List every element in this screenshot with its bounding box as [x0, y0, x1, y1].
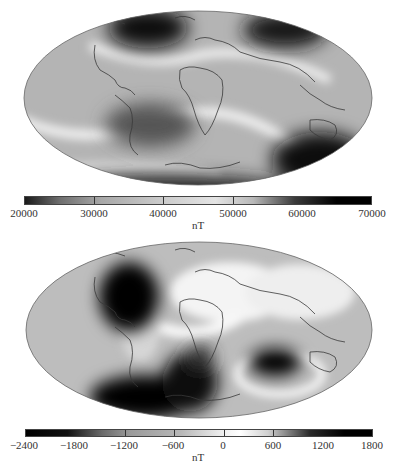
tick-label: 70000	[358, 207, 386, 219]
tick-label: −600	[162, 439, 185, 451]
tick-label: −1200	[110, 439, 138, 451]
colorbar-tick	[94, 197, 95, 204]
colorbar-total-intensity	[24, 196, 372, 205]
tick-label: −1800	[60, 439, 88, 451]
colorbar-tick	[224, 430, 225, 436]
colorbar-tick	[174, 430, 175, 436]
tick-label: 40000	[149, 207, 177, 219]
map-panel-non-dipole-field: −2400 −1800 −1200 −600 0 600 1200 1800 n…	[0, 232, 400, 474]
tick-label: −2400	[10, 439, 38, 451]
colorbar-tick	[273, 430, 274, 436]
world-map-non-dipole-field	[0, 232, 400, 422]
colorbar-tick	[163, 197, 164, 204]
colorbar-unit-label: nT	[192, 219, 204, 231]
tick-label: 600	[265, 439, 282, 451]
tick-label: 1200	[312, 439, 334, 451]
tick-label: 60000	[288, 207, 316, 219]
colorbar-tick	[125, 430, 126, 436]
tick-label: 0	[220, 439, 226, 451]
map-panel-total-intensity: 20000 30000 40000 50000 60000 70000 nT	[0, 0, 400, 230]
tick-label: 20000	[10, 207, 38, 219]
tick-label: 1800	[361, 439, 383, 451]
colorbar-tick	[233, 197, 234, 204]
colorbar-non-dipole-field	[25, 429, 373, 437]
tick-label: 30000	[80, 207, 108, 219]
world-map-total-intensity	[0, 0, 400, 190]
colorbar-unit-label: nT	[192, 451, 204, 463]
tick-label: 50000	[219, 207, 247, 219]
